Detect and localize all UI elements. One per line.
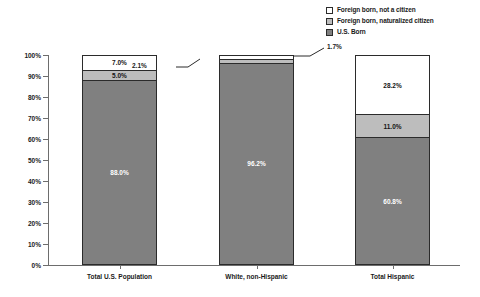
bar-column[interactable]: 28.2%11.0%60.8% bbox=[355, 55, 430, 265]
bar-segment-label: 88.0% bbox=[110, 169, 128, 176]
x-axis-tick bbox=[257, 265, 258, 269]
bar-segment-label: 60.8% bbox=[383, 198, 401, 205]
legend-swatch-icon bbox=[326, 18, 333, 25]
y-axis-line bbox=[48, 55, 49, 265]
y-axis-label: 40% bbox=[28, 178, 41, 185]
bar-segment[interactable]: 60.8% bbox=[355, 137, 430, 265]
callout-right-1-7: 1.7% bbox=[327, 43, 342, 50]
y-axis-tick bbox=[43, 118, 48, 119]
bar-segment-label: 11.0% bbox=[383, 123, 401, 130]
bar-segment-label: 28.2% bbox=[383, 82, 401, 89]
x-axis-tick bbox=[120, 265, 121, 269]
bar-segment[interactable]: 96.2% bbox=[219, 63, 294, 265]
bar-segment-label: 5.0% bbox=[112, 72, 127, 79]
y-axis-label: 50% bbox=[28, 157, 41, 164]
legend-item[interactable]: Foreign born, not a citizen bbox=[326, 6, 434, 14]
y-axis-label: 70% bbox=[28, 115, 41, 122]
y-axis-tick bbox=[43, 202, 48, 203]
legend-item[interactable]: U.S. Born bbox=[326, 28, 434, 36]
y-axis-tick bbox=[43, 97, 48, 98]
x-axis-category-label: White, non-Hispanic bbox=[194, 273, 319, 281]
y-axis-label: 90% bbox=[28, 73, 41, 80]
y-axis-tick bbox=[43, 160, 48, 161]
bar-segment-label: 7.0% bbox=[112, 59, 127, 66]
y-axis-label: 0% bbox=[32, 262, 41, 269]
x-axis-category-label: Total U.S. Population bbox=[57, 273, 182, 281]
legend-item-label: U.S. Born bbox=[337, 28, 366, 36]
y-axis-label: 100% bbox=[24, 52, 41, 59]
legend-item-label: Foreign born, not a citizen bbox=[337, 6, 416, 14]
x-axis-category-label: Total Hispanic bbox=[330, 273, 455, 281]
bar-column[interactable]: 96.2% bbox=[219, 55, 294, 265]
y-axis-label: 80% bbox=[28, 94, 41, 101]
bar-column[interactable]: 7.0%5.0%88.0% bbox=[82, 55, 157, 265]
legend-swatch-icon bbox=[326, 29, 333, 36]
bar-segment[interactable]: 5.0% bbox=[82, 70, 157, 81]
legend-item[interactable]: Foreign born, naturalized citizen bbox=[326, 17, 434, 25]
y-axis-tick bbox=[43, 76, 48, 77]
bar-segment[interactable]: 11.0% bbox=[355, 114, 430, 137]
y-axis-label: 10% bbox=[28, 241, 41, 248]
y-axis-tick bbox=[43, 139, 48, 140]
legend-swatch-icon bbox=[326, 7, 333, 14]
y-axis-tick bbox=[43, 181, 48, 182]
y-axis-label: 20% bbox=[28, 220, 41, 227]
y-axis-label: 60% bbox=[28, 136, 41, 143]
bar-segment-label: 96.2% bbox=[247, 160, 265, 167]
legend-item-label: Foreign born, naturalized citizen bbox=[337, 17, 434, 25]
y-axis-label: 30% bbox=[28, 199, 41, 206]
callout-left-2-1: 2.1% bbox=[132, 62, 147, 69]
y-axis-tick bbox=[43, 223, 48, 224]
y-axis-tick bbox=[43, 265, 48, 266]
x-axis-line bbox=[48, 265, 460, 266]
stacked-bar-chart: Foreign born, not a citizenForeign born,… bbox=[0, 0, 480, 297]
y-axis-tick bbox=[43, 55, 48, 56]
bar-segment[interactable]: 28.2% bbox=[355, 55, 430, 114]
x-axis-tick bbox=[393, 265, 394, 269]
plot-area: 100%90%80%70%60%50%40%30%20%10%0% 7.0%5.… bbox=[48, 55, 460, 265]
chart-legend: Foreign born, not a citizenForeign born,… bbox=[326, 6, 434, 36]
bar-segment[interactable]: 88.0% bbox=[82, 80, 157, 265]
y-axis-tick bbox=[43, 244, 48, 245]
